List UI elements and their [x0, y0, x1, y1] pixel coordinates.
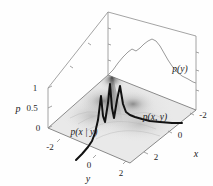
marginal-annotation: p(y): [171, 64, 187, 75]
y-tick-label-minus2: -2: [46, 142, 54, 152]
x-tick-label-2: 2: [154, 152, 159, 162]
z-tick-label-1: 1: [33, 83, 38, 93]
joint-annotation: p(x, y): [142, 112, 167, 123]
x-tick-label-0: 0: [178, 130, 183, 140]
back-left-top-edge: [48, 12, 108, 88]
z-axis-label: p: [15, 103, 21, 114]
figure-canvas: 1 0.5 0 -2 0 2 -2 0 2 p y x p(x | y) p(x…: [0, 0, 213, 186]
z-tick-label-0point5: 0.5: [26, 103, 38, 113]
x-tick-2: [144, 152, 148, 154]
right-tick-a: [196, 52, 199, 53]
z-tick-0point5: [48, 106, 52, 108]
marginal-py-curve: [108, 39, 196, 83]
top-tick-a: [70, 66, 73, 68]
back-tick-b: [108, 44, 111, 45]
z-tick-label-0: 0: [36, 123, 41, 133]
y-tick-label-2: 2: [119, 168, 124, 178]
back-tick-c: [108, 60, 111, 61]
y-tick-minus2: [57, 139, 60, 142]
y-tick-label-0: 0: [87, 160, 92, 170]
back-tick-a: [108, 28, 111, 29]
x-tick-label-minus2: -2: [199, 110, 207, 120]
y-tick-0: [93, 155, 96, 158]
right-tick-b: [196, 70, 199, 71]
conditional-annotation: p(x | y): [70, 127, 98, 138]
x-axis-label: x: [193, 148, 199, 159]
y-axis-label: y: [85, 173, 91, 184]
right-tick-c: [196, 90, 199, 91]
back-right-top-edge: [108, 12, 196, 36]
top-tick-b: [88, 43, 91, 45]
plot-svg: 1 0.5 0 -2 0 2 -2 0 2 p y x p(x | y) p(x…: [0, 0, 213, 186]
y-tick-2: [123, 161, 126, 164]
